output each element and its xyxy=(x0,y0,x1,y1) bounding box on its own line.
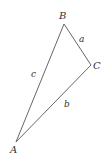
vertex-label-c: C xyxy=(93,60,101,71)
side-label-a: a xyxy=(79,34,84,44)
vertex-label-b: B xyxy=(58,10,66,21)
side-label-b: b xyxy=(64,99,70,109)
vertex-label-a: A xyxy=(9,144,17,155)
triangle-diagram: B C A a b c xyxy=(0,0,108,160)
side-label-c: c xyxy=(31,69,36,79)
